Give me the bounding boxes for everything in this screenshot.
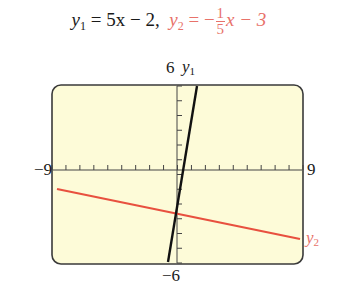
calculator-graph (0, 0, 338, 293)
y2-label-subscript: 2 (314, 236, 320, 248)
ymax-label: 6 (166, 58, 175, 78)
xmax-label: 9 (307, 160, 316, 180)
y1-line-label: y1 (182, 57, 195, 77)
xmax-value: 9 (307, 160, 316, 179)
ymin-label: −6 (162, 266, 180, 286)
xmin-label: −9 (34, 160, 52, 180)
xmin-value: −9 (34, 160, 52, 179)
y1-label-subscript: 1 (190, 65, 196, 77)
ymin-value: −6 (162, 266, 180, 285)
y1-label-symbol: y (182, 57, 190, 76)
y2-line-label: y2 (306, 228, 319, 248)
ymax-value: 6 (166, 58, 175, 77)
y2-label-symbol: y (306, 228, 314, 247)
